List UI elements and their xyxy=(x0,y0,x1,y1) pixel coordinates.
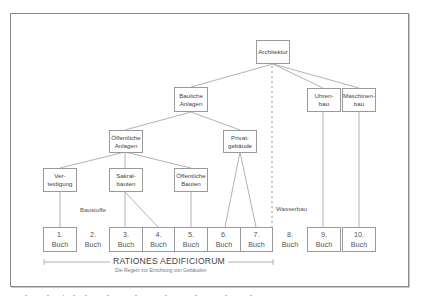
connector-lines xyxy=(0,0,421,300)
node-architektur: Architektur xyxy=(256,40,290,64)
book-9: 9. Buch xyxy=(307,227,341,252)
node-oeffentliche-bauten: Öffentliche Bauten xyxy=(174,168,208,192)
node-maschinenbau: Maschinen- bau xyxy=(342,88,376,112)
node-privatgebaeude: Privat- gebäude xyxy=(223,130,257,153)
node-verteidigung: Ver- teidigung xyxy=(43,168,77,192)
book-6: 6. Buch xyxy=(207,227,241,252)
book-3: 3. Buch xyxy=(109,227,143,252)
node-oeffentliche-anlagen: Öffentliche Anlagen xyxy=(109,130,143,153)
annotation-wasserbau: Wasserbau xyxy=(276,205,307,212)
bracket-title: RATIONES AEDIFICIORUM xyxy=(110,256,228,266)
book-5: 5. Buch xyxy=(174,227,208,252)
annotation-baustoffe: Baustoffe xyxy=(80,206,106,213)
book-1: 1. Buch xyxy=(43,227,77,252)
book-2: 2. Buch xyxy=(77,227,109,252)
node-bauliche-anlagen: Bauliche Anlagen xyxy=(174,87,208,112)
book-10: 10. Buch xyxy=(342,227,376,252)
book-7: 7. Buch xyxy=(240,227,273,252)
node-uhrenbau: Uhren- bau xyxy=(307,88,341,112)
book-8: 8. Buch xyxy=(274,227,306,252)
scan-speckles xyxy=(25,294,255,297)
bracket-subtitle: Die Regeln zur Errichtung von Gebäuden xyxy=(115,267,206,273)
book-4: 4. Buch xyxy=(142,227,175,252)
node-sakralbauten: Sakral- bauten xyxy=(109,168,143,192)
